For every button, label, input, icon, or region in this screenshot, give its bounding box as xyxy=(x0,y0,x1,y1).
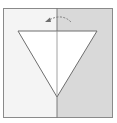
diagram-svg xyxy=(0,0,117,123)
fold-diagram xyxy=(0,0,117,123)
